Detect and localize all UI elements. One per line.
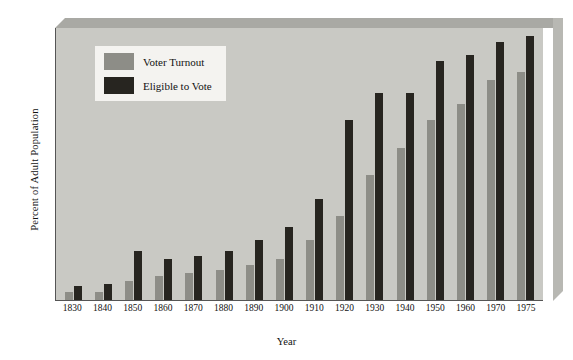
bar-1860-voter-turnout [155,276,163,300]
x-axis-tick-1950: 1950 [420,303,450,313]
bar-group-1930 [360,28,390,300]
bar-group-1970 [481,28,511,300]
bar-group-1900 [269,28,299,300]
bar-group-1960 [450,28,480,300]
bar-1975-voter-turnout [517,72,525,300]
x-axis-tick-1880: 1880 [208,303,238,313]
x-axis-tick-1910: 1910 [299,303,329,313]
bar-1890-eligible-to-vote [255,240,263,300]
x-axis-tick-1975: 1975 [511,303,541,313]
bar-1860-eligible-to-vote [164,259,172,300]
bar-1880-voter-turnout [216,270,224,300]
bar-group-1920 [330,28,360,300]
x-axis-tick-1830: 1830 [57,303,87,313]
bar-1830-voter-turnout [65,292,73,300]
x-axis-tick-1930: 1930 [360,303,390,313]
y-axis-tickmark-20 [55,246,56,247]
bar-1870-voter-turnout [185,273,193,300]
bar-1840-eligible-to-vote [104,284,112,300]
y-axis-title: Percent of Adult Population [29,60,40,280]
bar-1930-voter-turnout [366,175,374,300]
bar-1850-voter-turnout [125,281,133,300]
y-axis-tickmark-0 [55,300,56,301]
bar-1850-eligible-to-vote [134,251,142,300]
legend-item-eligible-to-vote: Eligible to Vote [104,77,212,94]
x-axis-tick-1870: 1870 [178,303,208,313]
legend-label-eligible-to-vote: Eligible to Vote [143,80,212,92]
bar-1840-voter-turnout [95,292,103,300]
bar-1900-eligible-to-vote [285,227,293,300]
chart-legend: Voter Turnout Eligible to Vote [95,46,226,101]
x-axis-tick-1860: 1860 [148,303,178,313]
legend-item-voter-turnout: Voter Turnout [104,53,212,70]
bar-1975-eligible-to-vote [526,36,534,300]
bar-group-1940 [390,28,420,300]
bar-1960-voter-turnout [457,104,465,300]
x-axis-tick-1940: 1940 [390,303,420,313]
x-axis-tick-1900: 1900 [269,303,299,313]
x-axis-tick-1840: 1840 [87,303,117,313]
x-axis-tick-1920: 1920 [329,303,359,313]
bar-group-1975 [511,28,541,300]
bar-group-1890 [239,28,269,300]
bar-1920-eligible-to-vote [345,120,353,300]
bar-1960-eligible-to-vote [466,55,474,300]
x-axis-tick-1890: 1890 [239,303,269,313]
bar-1920-voter-turnout [336,216,344,300]
bar-group-1950 [420,28,450,300]
x-axis-tick-labels: 1830184018501860187018801890190019101920… [55,303,543,313]
y-axis-tickmark-100 [55,28,56,29]
y-axis-tickmark-40 [55,191,56,192]
x-axis-tick-1850: 1850 [118,303,148,313]
bar-1930-eligible-to-vote [375,93,383,300]
legend-label-voter-turnout: Voter Turnout [143,56,204,68]
y-axis-tickmark-80 [55,82,56,83]
bar-group-1830 [58,28,88,300]
y-axis-tickmark-60 [55,137,56,138]
plot-bevel-top [55,18,563,28]
x-axis-tick-1970: 1970 [481,303,511,313]
plot-bevel-right [543,18,563,301]
bar-1950-voter-turnout [427,120,435,300]
bar-1900-voter-turnout [276,259,284,300]
bar-1880-eligible-to-vote [225,251,233,300]
bar-1940-voter-turnout [397,148,405,300]
bar-1940-eligible-to-vote [406,93,414,300]
x-axis-tick-1960: 1960 [450,303,480,313]
legend-swatch-eligible-to-vote [104,77,134,94]
bar-1970-voter-turnout [487,80,495,300]
bar-1890-voter-turnout [246,265,254,300]
bar-chart: Percent of Adult Population 020406080100… [0,0,573,360]
bar-group-1910 [300,28,330,300]
x-axis-title: Year [0,336,573,347]
bar-1910-voter-turnout [306,240,314,300]
legend-swatch-voter-turnout [104,53,134,70]
bar-1910-eligible-to-vote [315,199,323,300]
bar-1970-eligible-to-vote [496,42,504,300]
bar-1870-eligible-to-vote [194,256,202,300]
bar-1950-eligible-to-vote [436,61,444,300]
bar-1830-eligible-to-vote [74,286,82,300]
